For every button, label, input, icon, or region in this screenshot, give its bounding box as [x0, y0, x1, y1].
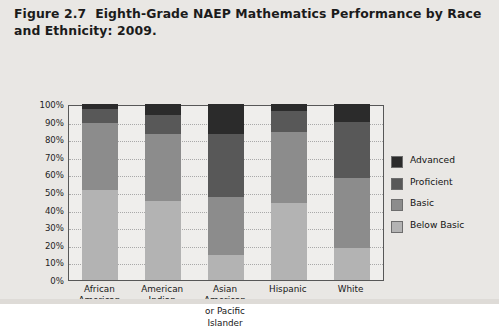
page-bottom-edge	[0, 299, 499, 304]
y-axis-tick-label: 20%	[26, 241, 64, 251]
x-axis-label-line: White	[312, 284, 389, 295]
bar-segment-basic	[208, 197, 244, 255]
legend-item: Proficient	[391, 176, 491, 198]
chart-container: 100%90%80%70%60%50%40%30%20%10%0% Africa…	[0, 48, 499, 304]
bar-segment-proficient	[82, 109, 118, 123]
bar-segment-basic	[334, 178, 370, 248]
y-axis-tick-label: 10%	[26, 258, 64, 268]
bar-segment-below-basic	[271, 203, 307, 280]
bar-segment-basic	[82, 123, 118, 190]
bar-segment-basic	[145, 134, 181, 201]
figure-number: Figure 2.7	[14, 6, 86, 21]
y-axis: 100%90%80%70%60%50%40%30%20%10%0%	[26, 105, 64, 281]
bar-segment-advanced	[208, 104, 244, 134]
legend-swatch-basic	[391, 199, 403, 211]
y-axis-tick-label: 100%	[26, 100, 64, 110]
x-axis-label-line: Islander	[187, 318, 264, 329]
legend-item: Basic	[391, 197, 491, 219]
y-axis-tick-label: 0%	[26, 276, 64, 286]
legend-label: Proficient	[410, 177, 453, 187]
bar-segment-proficient	[208, 134, 244, 197]
bar-segment-basic	[271, 132, 307, 202]
bar-segment-below-basic	[208, 255, 244, 280]
y-axis-tick-label: 70%	[26, 153, 64, 163]
bar-african-american	[82, 106, 118, 280]
figure-caption: Figure 2.7Eighth-Grade NAEP Mathematics …	[14, 5, 484, 39]
legend-label: Advanced	[410, 155, 455, 165]
y-axis-tick-label: 60%	[26, 170, 64, 180]
x-axis-label-line: or Pacific	[187, 306, 264, 317]
legend-label: Below Basic	[410, 220, 464, 230]
legend-item: Below Basic	[391, 219, 491, 241]
bar-segment-proficient	[334, 122, 370, 178]
bar-segment-advanced	[145, 104, 181, 115]
bar-segment-advanced	[334, 104, 370, 122]
x-axis: AfricanAmericanAmericanIndianAsianAmeric…	[68, 284, 384, 330]
y-axis-tick-label: 90%	[26, 118, 64, 128]
bar-segment-below-basic	[145, 201, 181, 280]
bar-american-indian	[145, 106, 181, 280]
legend-item: Advanced	[391, 154, 491, 176]
x-axis-tick-label: White	[312, 284, 389, 295]
bar-segment-proficient	[145, 115, 181, 134]
legend-swatch-advanced	[391, 156, 403, 168]
y-axis-tick-label: 30%	[26, 223, 64, 233]
bar-segment-advanced	[271, 104, 307, 111]
bar-asian-american-or-pacific-islander	[208, 106, 244, 280]
bar-segment-advanced	[82, 104, 118, 109]
bar-segment-below-basic	[82, 190, 118, 280]
bar-hispanic	[271, 106, 307, 280]
legend-swatch-below-basic	[391, 221, 403, 233]
bar-segment-proficient	[271, 111, 307, 132]
bar-group	[69, 106, 383, 280]
plot-area	[68, 105, 384, 281]
chart-legend: AdvancedProficientBasicBelow Basic	[391, 154, 491, 240]
legend-label: Basic	[410, 198, 434, 208]
bar-white	[334, 106, 370, 280]
y-axis-tick-label: 40%	[26, 206, 64, 216]
y-axis-tick-label: 50%	[26, 188, 64, 198]
bar-segment-below-basic	[334, 248, 370, 280]
y-axis-tick-label: 80%	[26, 135, 64, 145]
legend-swatch-proficient	[391, 178, 403, 190]
